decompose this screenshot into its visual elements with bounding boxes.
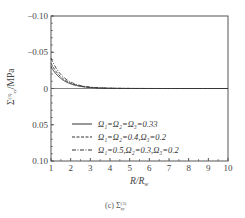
x-tick-label: 2 bbox=[68, 163, 73, 173]
series-line bbox=[51, 67, 228, 89]
series-line bbox=[51, 58, 228, 88]
x-axis-ticks: 12345678910 bbox=[49, 158, 233, 173]
x-tick-label: 4 bbox=[108, 163, 113, 173]
data-curves bbox=[51, 58, 228, 88]
figure-caption: (c) Σ(3)xy bbox=[105, 201, 127, 211]
x-tick-label: 10 bbox=[224, 163, 234, 173]
x-tick-label: 3 bbox=[88, 163, 93, 173]
legend-item-2: Ω₁=Ω₂=0.4,Ω₃=0.2 bbox=[98, 132, 167, 142]
legend-item-3: Ω₁=0.5,Ω₂=0.3,Ω₃=0.2 bbox=[98, 145, 179, 155]
y-tick-label: 0 bbox=[44, 84, 49, 94]
x-tick-label: 7 bbox=[167, 163, 172, 173]
x-axis-label: R/Rw bbox=[129, 176, 148, 187]
y-tick-label: 0.05 bbox=[32, 120, 48, 130]
x-tick-label: 1 bbox=[49, 163, 54, 173]
y-axis-ticks: −0.10−0.0500.050.10 bbox=[27, 11, 54, 166]
x-tick-label: 8 bbox=[186, 163, 191, 173]
y-tick-label: −0.05 bbox=[27, 47, 48, 57]
chart: −0.10−0.0500.050.10 12345678910 Ω₁=Ω₂=Ω₃… bbox=[0, 0, 245, 218]
y-axis-label: Σ(3)xy/MPa bbox=[6, 68, 17, 105]
y-tick-label: −0.10 bbox=[27, 11, 48, 21]
legend: Ω₁=Ω₂=Ω₃=0.33 Ω₁=Ω₂=0.4,Ω₃=0.2 Ω₁=0.5,Ω₂… bbox=[72, 119, 179, 155]
legend-item-1: Ω₁=Ω₂=Ω₃=0.33 bbox=[98, 119, 157, 129]
series-line bbox=[51, 63, 228, 88]
x-tick-label: 5 bbox=[127, 163, 132, 173]
x-tick-label: 9 bbox=[206, 163, 211, 173]
x-tick-label: 6 bbox=[147, 163, 152, 173]
y-tick-label: 0.10 bbox=[32, 156, 48, 166]
